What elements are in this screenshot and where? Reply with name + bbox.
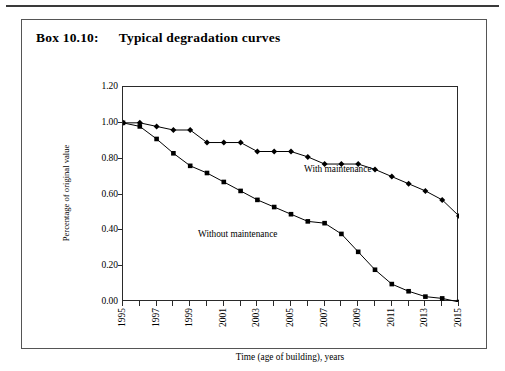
x-tick-mark	[240, 301, 241, 306]
x-tick-label: 2007	[319, 308, 329, 327]
x-tick-label: 2013	[419, 308, 429, 327]
y-tick-label: 1.00	[101, 117, 118, 127]
box-title-text: Typical degradation curves	[119, 30, 281, 46]
x-tick-label: 2001	[218, 308, 228, 327]
box-title: Box 10.10:Typical degradation curves	[36, 30, 280, 46]
data-point-marker	[423, 294, 428, 299]
data-point-marker	[372, 166, 378, 172]
y-tick-label: 0.60	[101, 189, 118, 199]
y-axis-tick-labels: 0.000.200.400.600.801.001.20	[82, 86, 118, 301]
series-annotation-with-maintenance: With maintenance	[304, 164, 372, 174]
data-point-marker	[255, 198, 260, 203]
plot-area	[122, 86, 458, 301]
x-tick-mark	[156, 301, 157, 306]
data-point-marker	[222, 180, 227, 185]
y-tick-label: 0.20	[101, 260, 118, 270]
x-tick-label: 2015	[453, 308, 463, 327]
data-point-marker	[339, 232, 344, 237]
data-point-marker	[170, 127, 176, 133]
x-tick-mark	[441, 301, 442, 306]
data-point-marker	[221, 140, 227, 146]
x-tick-mark	[206, 301, 207, 306]
data-point-marker	[171, 151, 176, 156]
y-tick-label: 1.20	[101, 81, 118, 91]
data-point-marker	[305, 154, 311, 160]
x-axis-title: Time (age of building), years	[122, 352, 458, 362]
box-container: Box 10.10:Typical degradation curves Per…	[21, 19, 487, 349]
x-axis-tick-labels: 1995199719992001200320052007200920112013…	[122, 308, 458, 348]
data-point-marker	[238, 189, 243, 194]
x-tick-label: 1995	[117, 308, 127, 327]
x-tick-mark	[324, 301, 325, 306]
data-point-marker	[289, 212, 294, 217]
data-point-marker	[389, 174, 395, 180]
y-tick-label: 0.40	[101, 224, 118, 234]
data-point-marker	[188, 164, 193, 169]
x-tick-mark	[424, 301, 425, 306]
data-point-marker	[271, 149, 277, 155]
data-point-marker	[356, 250, 361, 255]
x-tick-label: 2005	[285, 308, 295, 327]
x-axis-tick-marks	[122, 301, 458, 307]
x-tick-mark	[357, 301, 358, 306]
data-point-marker	[390, 282, 395, 287]
x-tick-label: 2009	[352, 308, 362, 327]
data-point-marker	[373, 267, 378, 272]
series-annotation-without-maintenance: Without maintenance	[198, 229, 277, 239]
x-tick-label: 1999	[184, 308, 194, 327]
x-tick-mark	[122, 301, 123, 306]
data-point-marker	[254, 149, 260, 155]
x-tick-mark	[290, 301, 291, 306]
x-tick-mark	[458, 301, 459, 306]
data-point-marker	[238, 140, 244, 146]
y-axis-title: Percentage of original value	[61, 145, 71, 242]
x-tick-mark	[256, 301, 257, 306]
box-number: Box 10.10:	[36, 30, 99, 46]
page-top-rule	[6, 5, 499, 7]
y-tick-label: 0.80	[101, 153, 118, 163]
x-tick-mark	[391, 301, 392, 306]
x-tick-mark	[139, 301, 140, 306]
data-point-marker	[422, 188, 428, 194]
data-point-marker	[322, 221, 327, 226]
degradation-curves-chart: Percentage of original value 0.000.200.4…	[22, 46, 488, 346]
x-tick-mark	[172, 301, 173, 306]
y-tick-label: 0.00	[101, 296, 118, 306]
x-tick-mark	[408, 301, 409, 306]
data-point-marker	[272, 205, 277, 210]
x-tick-label: 2011	[386, 308, 396, 327]
x-tick-mark	[340, 301, 341, 306]
x-tick-label: 2003	[251, 308, 261, 327]
data-point-marker	[288, 149, 294, 155]
x-tick-mark	[374, 301, 375, 306]
data-point-marker	[306, 219, 311, 224]
x-tick-mark	[189, 301, 190, 306]
data-point-marker	[154, 137, 159, 142]
x-tick-mark	[307, 301, 308, 306]
data-point-marker	[123, 121, 125, 126]
x-tick-label: 1997	[151, 308, 161, 327]
x-tick-mark	[223, 301, 224, 306]
data-point-marker	[406, 181, 412, 187]
chart-svg	[123, 87, 459, 302]
data-point-marker	[205, 171, 210, 176]
x-tick-mark	[273, 301, 274, 306]
series-line-with-maintenance	[123, 123, 459, 216]
data-point-marker	[406, 289, 411, 294]
data-point-marker	[154, 123, 160, 129]
data-point-marker	[138, 124, 143, 129]
